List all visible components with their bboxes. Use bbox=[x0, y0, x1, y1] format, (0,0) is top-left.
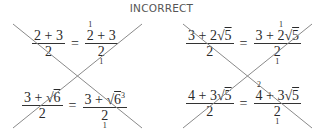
cancelled-value: 2 bbox=[87, 28, 94, 43]
numerator-term: 3 + 2 bbox=[188, 28, 217, 43]
equals-sign: = bbox=[240, 96, 248, 112]
numerator: 3 + √6 bbox=[22, 90, 63, 105]
denominator: 21 bbox=[274, 44, 281, 59]
equals-sign: = bbox=[69, 98, 77, 114]
cancelled-value: 2 bbox=[277, 28, 284, 43]
cancel-result: 1 bbox=[88, 21, 92, 29]
radicand: 5 bbox=[225, 88, 232, 103]
numerator: 3 + 12√5 bbox=[254, 28, 302, 43]
numerator: 3 + 2√5 bbox=[186, 28, 234, 43]
cancel-result: 1 bbox=[103, 122, 107, 130]
radicand: 6 bbox=[54, 90, 61, 105]
rhs-fraction: 12 + 3 21 bbox=[85, 28, 118, 59]
cancelled-term: 12 bbox=[87, 28, 94, 43]
sqrt-symbol: √ bbox=[106, 92, 114, 107]
numerator-term: 4 + 3 bbox=[188, 88, 217, 103]
numerator-term: 3 + bbox=[24, 90, 46, 105]
numerator-rest: + 3 bbox=[94, 28, 116, 43]
cancelled-term: 12 bbox=[277, 28, 284, 43]
cancel-result: 3 bbox=[121, 91, 125, 100]
numerator: 3 + √63 bbox=[83, 88, 128, 107]
numerator: 24 + 3√5 bbox=[254, 88, 302, 103]
denominator: 21 bbox=[98, 44, 105, 59]
cancel-result: 1 bbox=[275, 58, 279, 66]
radicand: 5 bbox=[292, 88, 299, 103]
lhs-fraction: 2 + 3 2 bbox=[32, 28, 65, 59]
title-incorrect: INCORRECT bbox=[0, 2, 323, 14]
numerator: 4 + 3√5 bbox=[186, 88, 234, 103]
numerator-term: 3 + bbox=[256, 28, 278, 43]
rhs-fraction: 3 + 12√5 21 bbox=[254, 28, 302, 59]
radicand: 5 bbox=[292, 28, 299, 43]
rhs-fraction: 3 + √63 21 bbox=[83, 88, 128, 123]
lhs-fraction: 3 + 2√5 2 bbox=[186, 28, 234, 59]
cancel-result: 1 bbox=[275, 118, 279, 126]
lhs-fraction: 4 + 3√5 2 bbox=[186, 88, 234, 119]
sqrt-symbol: √ bbox=[217, 88, 225, 103]
radicand: 5 bbox=[225, 28, 232, 43]
numerator: 12 + 3 bbox=[85, 28, 118, 43]
cancel-result: 1 bbox=[279, 21, 283, 29]
cancel-result: 1 bbox=[99, 58, 103, 66]
denominator: 21 bbox=[274, 104, 281, 119]
cancelled-term: 24 bbox=[256, 88, 263, 103]
lhs-fraction: 3 + √6 2 bbox=[22, 90, 63, 121]
denominator: 2 bbox=[39, 106, 46, 121]
cancelled-value: 4 bbox=[256, 88, 263, 103]
rhs-fraction: 24 + 3√5 21 bbox=[254, 88, 302, 119]
sqrt-symbol: √ bbox=[217, 28, 225, 43]
numerator-term: 3 + bbox=[85, 92, 107, 107]
equals-sign: = bbox=[240, 36, 248, 52]
numerator-term: + 3 bbox=[263, 88, 285, 103]
equals-sign: = bbox=[71, 36, 79, 52]
sqrt-symbol: √ bbox=[284, 28, 292, 43]
sqrt-symbol: √ bbox=[284, 88, 292, 103]
denominator: 2 bbox=[206, 104, 213, 119]
equation-4: 4 + 3√5 2 = 24 + 3√5 21 bbox=[186, 88, 301, 119]
denominator: 21 bbox=[101, 108, 108, 123]
numerator: 2 + 3 bbox=[32, 28, 65, 43]
equation-2: 3 + √6 2 = 3 + √63 21 bbox=[22, 88, 127, 123]
denominator: 2 bbox=[45, 44, 52, 59]
denominator: 2 bbox=[206, 44, 213, 59]
sqrt-symbol: √ bbox=[46, 90, 54, 105]
cancel-result: 2 bbox=[257, 81, 261, 89]
equation-3: 3 + 2√5 2 = 3 + 12√5 21 bbox=[186, 28, 301, 59]
equation-1: 2 + 3 2 = 12 + 3 21 bbox=[32, 28, 118, 59]
